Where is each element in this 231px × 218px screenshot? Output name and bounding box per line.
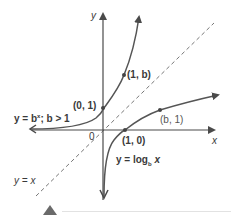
bottom-divider bbox=[62, 211, 231, 212]
exp-cond: ; b > 1 bbox=[40, 113, 69, 124]
log-label: y = logb x bbox=[116, 155, 160, 167]
x-axis-label: x bbox=[212, 136, 217, 146]
point-label-0-1: (0, 1) bbox=[73, 101, 96, 111]
y-axis-label: y bbox=[91, 11, 96, 21]
triangle-marker-icon bbox=[43, 205, 57, 215]
identity-line bbox=[36, 23, 214, 196]
point-label-1-b: (1, b) bbox=[127, 70, 151, 80]
point-label-1-0: (1, 0) bbox=[122, 136, 145, 146]
point-b-1 bbox=[158, 108, 162, 112]
point-label-b-1: (b, 1) bbox=[160, 115, 183, 125]
exp-eq: y = b bbox=[14, 113, 37, 124]
log-var: x bbox=[152, 154, 160, 165]
identity-label: y = x bbox=[14, 176, 35, 186]
point-1-b bbox=[122, 73, 126, 77]
point-1-0 bbox=[123, 128, 127, 132]
origin-label: 0 bbox=[89, 132, 95, 142]
exponential-label: y = bx; b > 1 bbox=[14, 113, 70, 124]
log-prefix: y = log bbox=[116, 154, 148, 165]
point-0-1 bbox=[101, 106, 105, 110]
